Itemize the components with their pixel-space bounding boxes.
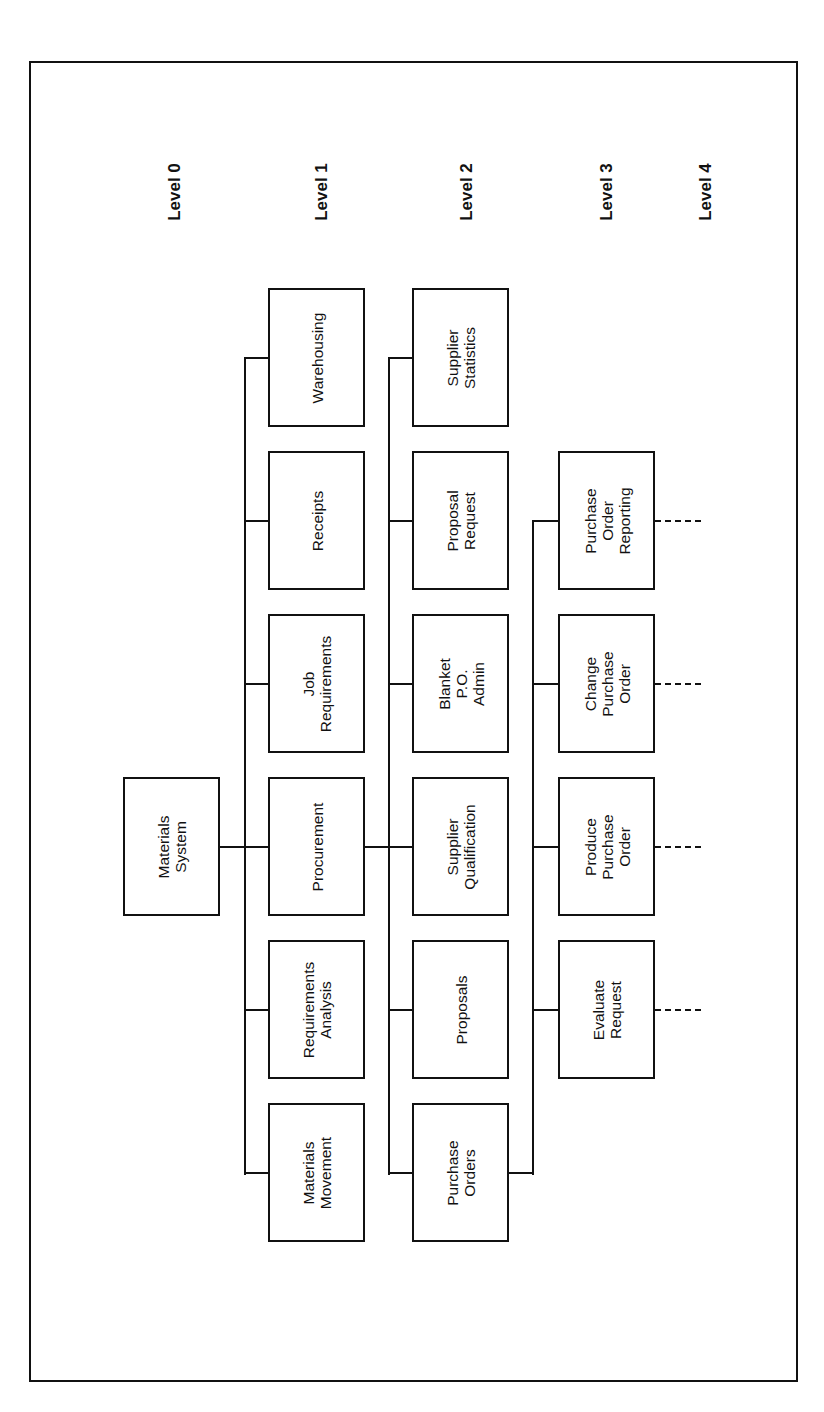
node-materials-system: Materials System bbox=[123, 777, 220, 916]
node-purchase-order-reporting: Purchase Order Reporting bbox=[558, 451, 655, 590]
node-label: Proposal Request bbox=[444, 451, 478, 590]
node-job-requirements: Job Requirements bbox=[268, 614, 365, 753]
node-receipts: Receipts bbox=[268, 451, 365, 590]
node-requirements-analysis: Requirements Analysis bbox=[268, 940, 365, 1079]
level4-continuation bbox=[655, 520, 701, 522]
connector bbox=[388, 683, 412, 685]
connector bbox=[244, 846, 268, 848]
level-0-label: Level 0 bbox=[164, 157, 186, 227]
connector bbox=[244, 357, 268, 359]
node-label: Purchase Orders bbox=[444, 1103, 478, 1242]
node-procurement: Procurement bbox=[268, 777, 365, 916]
connector bbox=[244, 520, 268, 522]
node-label: Purchase Order Reporting bbox=[581, 451, 632, 590]
node-proposal-request: Proposal Request bbox=[412, 451, 509, 590]
connector bbox=[532, 846, 558, 848]
level2-bus bbox=[388, 358, 390, 1175]
node-label: Materials Movement bbox=[300, 1103, 334, 1242]
connector bbox=[388, 1009, 412, 1011]
connector bbox=[244, 1172, 268, 1174]
level4-continuation bbox=[655, 846, 701, 848]
node-blanket-po-admin: Blanket P.O. Admin bbox=[412, 614, 509, 753]
node-label: Evaluate Request bbox=[590, 940, 624, 1079]
node-change-purchase-order: Change Purchase Order bbox=[558, 614, 655, 753]
node-produce-purchase-order: Produce Purchase Order bbox=[558, 777, 655, 916]
node-evaluate-request: Evaluate Request bbox=[558, 940, 655, 1079]
connector bbox=[532, 1009, 558, 1011]
node-label: Materials System bbox=[155, 777, 189, 916]
node-label: Warehousing bbox=[308, 288, 325, 427]
connector bbox=[244, 1009, 268, 1011]
level-4-label: Level 4 bbox=[695, 157, 717, 227]
node-purchase-orders: Purchase Orders bbox=[412, 1103, 509, 1242]
node-supplier-statistics: Supplier Statistics bbox=[412, 288, 509, 427]
connector bbox=[388, 520, 412, 522]
node-supplier-qualification: Supplier Qualification bbox=[412, 777, 509, 916]
node-label: Produce Purchase Order bbox=[581, 777, 632, 916]
level1-bus bbox=[244, 358, 246, 1175]
node-label: Supplier Statistics bbox=[444, 288, 478, 427]
connector bbox=[532, 683, 558, 685]
node-materials-movement: Materials Movement bbox=[268, 1103, 365, 1242]
connector bbox=[220, 846, 245, 848]
node-label: Change Purchase Order bbox=[581, 614, 632, 753]
node-proposals: Proposals bbox=[412, 940, 509, 1079]
connector bbox=[509, 1172, 534, 1174]
level-1-label: Level 1 bbox=[311, 157, 333, 227]
node-label: Procurement bbox=[308, 777, 325, 916]
node-warehousing: Warehousing bbox=[268, 288, 365, 427]
level4-continuation bbox=[655, 1009, 701, 1011]
node-label: Proposals bbox=[452, 940, 469, 1079]
node-label: Blanket P.O. Admin bbox=[435, 614, 486, 753]
node-label: Requirements Analysis bbox=[300, 940, 334, 1079]
connector bbox=[532, 520, 558, 522]
node-label: Job Requirements bbox=[300, 614, 334, 753]
connector bbox=[244, 683, 268, 685]
level-2-label: Level 2 bbox=[456, 157, 478, 227]
connector bbox=[365, 846, 389, 848]
connector bbox=[388, 357, 412, 359]
node-label: Supplier Qualification bbox=[444, 777, 478, 916]
level4-continuation bbox=[655, 683, 701, 685]
connector bbox=[388, 1172, 412, 1174]
connector bbox=[388, 846, 412, 848]
node-label: Receipts bbox=[308, 451, 325, 590]
level-3-label: Level 3 bbox=[596, 157, 618, 227]
